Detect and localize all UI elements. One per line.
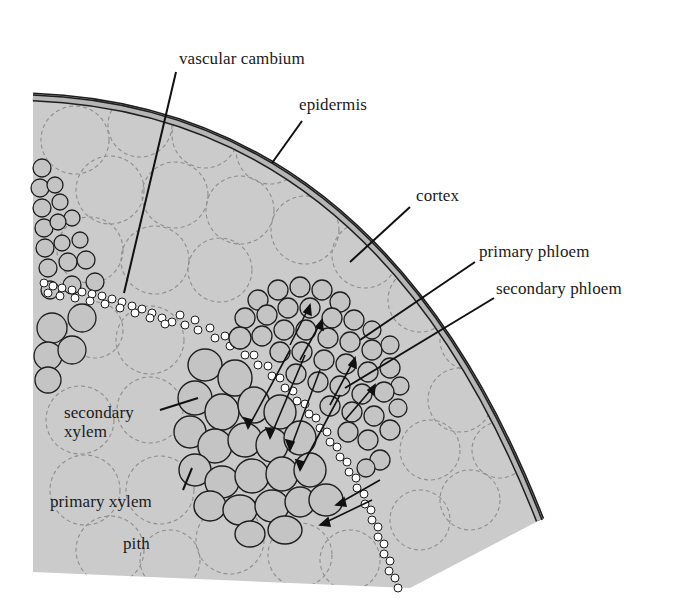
label-secondary-phloem: secondary phloem <box>496 280 622 297</box>
label-primary-phloem: primary phloem <box>479 243 589 260</box>
label-secondary-xylem-line2: xylem <box>64 423 107 440</box>
label-primary-xylem: primary xylem <box>50 493 152 510</box>
label-cortex: cortex <box>416 187 459 204</box>
label-epidermis: epidermis <box>299 96 367 113</box>
label-vascular-cambium: vascular cambium <box>179 50 305 67</box>
leader-epidermis <box>272 121 302 163</box>
stem-cross-section-diagram: vascular cambium epidermis cortex primar… <box>0 0 694 599</box>
label-pith: pith <box>123 535 150 552</box>
label-secondary-xylem-line1: secondary <box>64 404 134 421</box>
